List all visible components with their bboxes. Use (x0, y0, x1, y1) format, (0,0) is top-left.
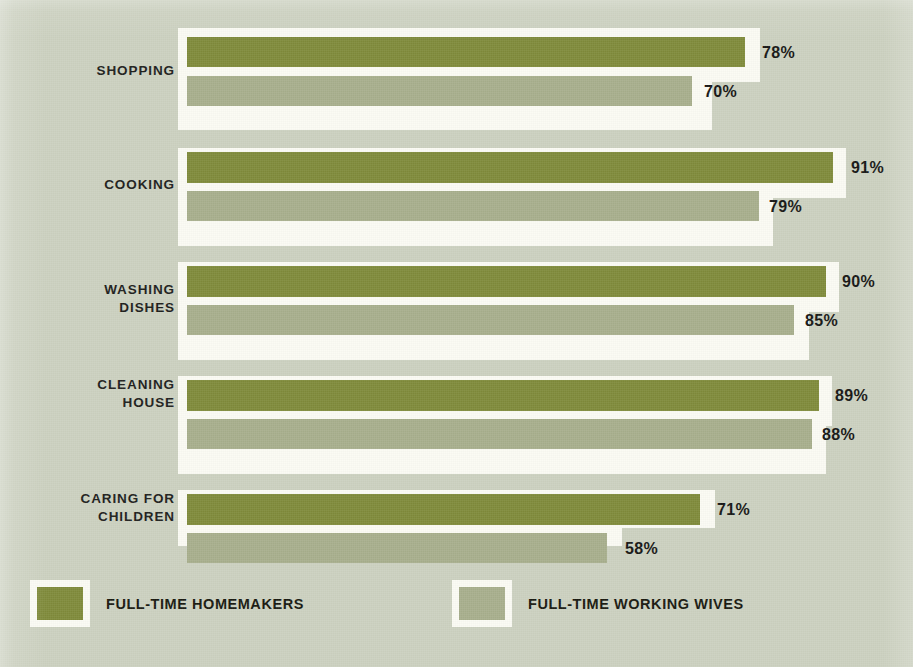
category-label-line1: CLEANING (0, 376, 175, 394)
bar-value-cleaning-house-working-wives: 88% (822, 427, 855, 443)
legend-swatch-wrapper (30, 580, 90, 627)
bar-shopping-homemakers (187, 37, 745, 67)
bar-value-shopping-homemakers: 78% (762, 45, 795, 61)
legend-swatch-wrapper (452, 580, 512, 627)
legend-label-working-wives: FULL-TIME WORKING WIVES (528, 596, 744, 612)
category-label-line2: CHILDREN (0, 508, 175, 526)
category-label-line1: CARING FOR (0, 490, 175, 508)
panel-mask (846, 148, 850, 198)
bar-value-washing-dishes-homemakers: 90% (842, 274, 875, 290)
category-label-washing-dishes: WASHING DISHES (0, 281, 175, 317)
legend-color-swatch-working-wives (459, 587, 505, 620)
bar-washing-dishes-homemakers (187, 266, 826, 297)
panel-mask (178, 360, 850, 376)
category-label-line2: HOUSE (0, 394, 175, 412)
bar-value-washing-dishes-working-wives: 85% (805, 313, 838, 329)
bar-value-caring-for-children-homemakers: 71% (717, 502, 750, 518)
category-label-cleaning-house: CLEANING HOUSE (0, 376, 175, 412)
bar-value-cooking-working-wives: 79% (769, 199, 802, 215)
legend-item-full-time-working-wives[interactable]: FULL-TIME WORKING WIVES (452, 580, 744, 627)
category-label-line1: WASHING (0, 281, 175, 299)
bar-cooking-homemakers (187, 152, 833, 183)
panel-mask (178, 130, 850, 148)
chart-legend: FULL-TIME HOMEMAKERS FULL-TIME WORKING W… (0, 572, 913, 642)
bar-value-caring-for-children-working-wives: 58% (625, 541, 658, 557)
bar-shopping-working-wives (187, 76, 692, 106)
plot-area: SHOPPING 78% 70% COOKING 91% 79% WASHING… (0, 0, 913, 560)
legend-color-swatch-homemakers (37, 587, 83, 620)
category-label-caring-for-children: CARING FOR CHILDREN (0, 490, 175, 526)
bar-washing-dishes-working-wives (187, 305, 794, 335)
category-label-line1: COOKING (0, 176, 175, 194)
panel-mask (178, 474, 850, 490)
bar-caring-for-children-homemakers (187, 494, 700, 525)
bar-caring-for-children-working-wives (187, 533, 607, 563)
bar-value-cooking-homemakers: 91% (851, 160, 884, 176)
bar-value-cleaning-house-homemakers: 89% (835, 388, 868, 404)
category-label-line2: DISHES (0, 299, 175, 317)
category-label-line1: SHOPPING (0, 62, 175, 80)
category-label-shopping: SHOPPING (0, 62, 175, 80)
legend-item-full-time-homemakers[interactable]: FULL-TIME HOMEMAKERS (30, 580, 304, 627)
panel-mask (178, 246, 850, 262)
bar-cooking-working-wives (187, 191, 759, 221)
bar-cleaning-house-working-wives (187, 419, 812, 449)
bar-cleaning-house-homemakers (187, 380, 819, 411)
chart-screenshot: SHOPPING 78% 70% COOKING 91% 79% WASHING… (0, 0, 913, 667)
legend-label-homemakers: FULL-TIME HOMEMAKERS (106, 596, 304, 612)
category-label-cooking: COOKING (0, 176, 175, 194)
bar-value-shopping-working-wives: 70% (704, 84, 737, 100)
